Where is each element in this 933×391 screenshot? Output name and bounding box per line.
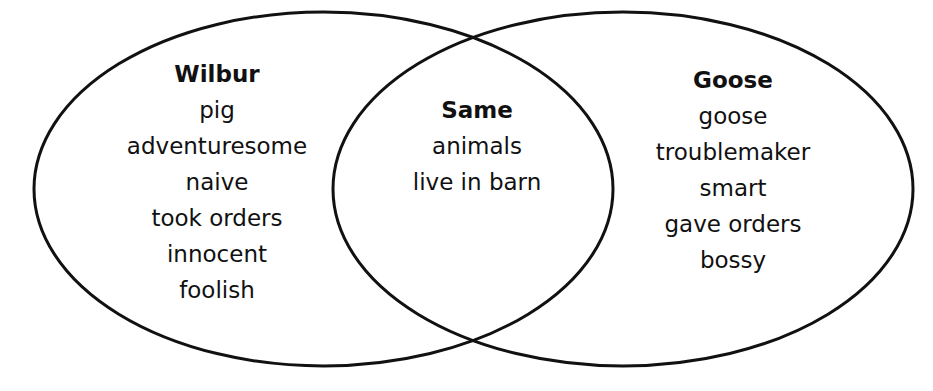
wilbur-item: adventuresome	[127, 128, 307, 164]
goose-title: Goose	[656, 62, 810, 98]
wilbur-item: pig	[127, 92, 307, 128]
same-title: Same	[413, 92, 541, 128]
goose-item: gave orders	[656, 206, 810, 242]
same-item: live in barn	[413, 164, 541, 200]
wilbur-section: Wilbur pig adventuresome naive took orde…	[127, 56, 307, 308]
same-section: Same animals live in barn	[413, 92, 541, 200]
same-item: animals	[413, 128, 541, 164]
wilbur-title: Wilbur	[127, 56, 307, 92]
wilbur-item: naive	[127, 164, 307, 200]
wilbur-item: foolish	[127, 272, 307, 308]
goose-section: Goose goose troublemaker smart gave orde…	[656, 62, 810, 278]
goose-item: bossy	[656, 242, 810, 278]
goose-item: troublemaker	[656, 134, 810, 170]
wilbur-item: innocent	[127, 236, 307, 272]
wilbur-item: took orders	[127, 200, 307, 236]
goose-item: goose	[656, 98, 810, 134]
goose-item: smart	[656, 170, 810, 206]
